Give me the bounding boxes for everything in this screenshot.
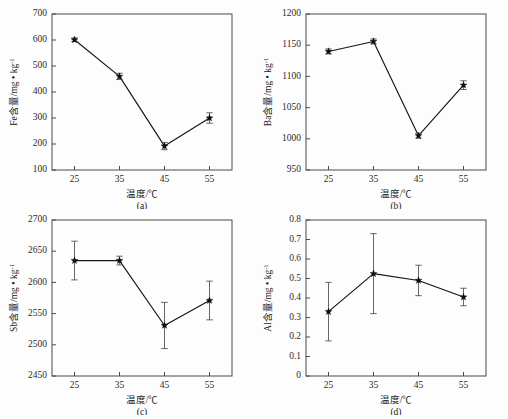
y-tick-label-b-5: 1200 <box>282 8 301 18</box>
x-tick-label-b-0: 25 <box>324 174 334 184</box>
chart-panel-d: 00.10.20.30.40.50.60.70.825354555温度/℃Al含… <box>254 206 508 415</box>
x-axis-title-d: 温度/℃ <box>380 394 413 405</box>
chart-svg-a: 10020030040050060070025354555温度/℃Fe含量/mg… <box>0 0 254 209</box>
data-line-b <box>329 41 464 135</box>
y-axis-title-main-a: Fe含量/mg • kg <box>8 64 19 126</box>
y-axis-title-group-d: Al含量/mg • kg-1 <box>262 264 273 331</box>
x-tick-label-c-1: 35 <box>115 380 125 390</box>
y-tick-label-d-5: 0.5 <box>289 273 301 283</box>
plot-frame-b <box>306 14 486 170</box>
x-tick-label-d-2: 45 <box>414 380 424 390</box>
y-tick-label-b-0: 950 <box>287 164 302 174</box>
x-tick-label-a-1: 35 <box>115 174 125 184</box>
x-tick-label-b-3: 55 <box>459 174 469 184</box>
y-tick-label-d-1: 0.1 <box>289 351 301 361</box>
figure-root: 10020030040050060070025354555温度/℃Fe含量/mg… <box>0 0 508 419</box>
panel-caption-c: (c) <box>137 407 148 415</box>
x-tick-label-d-0: 25 <box>324 380 334 390</box>
x-tick-label-d-3: 55 <box>459 380 469 390</box>
y-tick-label-a-4: 500 <box>33 60 48 70</box>
y-tick-label-b-3: 1100 <box>282 71 301 81</box>
chart-svg-d: 00.10.20.30.40.50.60.70.825354555温度/℃Al含… <box>254 206 508 415</box>
y-tick-label-c-3: 2600 <box>28 277 47 287</box>
y-tick-label-c-5: 2700 <box>28 214 47 224</box>
x-tick-label-b-1: 35 <box>369 174 379 184</box>
y-axis-title-main-b: Ba含量/mg • kg <box>262 63 273 126</box>
y-axis-title-a: Fe含量/mg • kg-1 <box>8 58 19 125</box>
y-tick-label-c-0: 2450 <box>28 370 47 380</box>
y-tick-label-d-2: 0.2 <box>289 331 301 341</box>
chart-panel-a: 10020030040050060070025354555温度/℃Fe含量/mg… <box>0 0 254 209</box>
y-tick-label-d-8: 0.8 <box>289 214 301 224</box>
y-axis-title-b: Ba含量/mg • kg-1 <box>262 58 273 126</box>
y-tick-label-a-3: 400 <box>33 86 48 96</box>
x-tick-label-a-3: 55 <box>205 174 215 184</box>
y-tick-label-b-4: 1150 <box>282 39 301 49</box>
y-tick-label-b-1: 1000 <box>282 133 301 143</box>
y-axis-title-exp-c: -1 <box>8 264 15 270</box>
y-tick-label-d-7: 0.7 <box>289 234 301 244</box>
y-axis-title-exp-b: -1 <box>262 58 269 64</box>
y-tick-label-c-4: 2650 <box>28 245 47 255</box>
y-tick-label-a-1: 200 <box>33 138 48 148</box>
y-axis-title-exp-a: -1 <box>8 58 15 64</box>
data-line-c <box>75 261 210 326</box>
panel-caption-d: (d) <box>390 407 401 415</box>
y-tick-label-c-1: 2500 <box>28 339 47 349</box>
y-tick-label-a-0: 100 <box>33 164 48 174</box>
y-axis-title-group-a: Fe含量/mg • kg-1 <box>8 58 19 125</box>
x-tick-label-c-3: 55 <box>205 380 215 390</box>
x-tick-label-c-2: 45 <box>160 380 170 390</box>
y-tick-label-d-6: 0.6 <box>289 253 301 263</box>
x-tick-label-c-0: 25 <box>70 380 80 390</box>
y-axis-title-d: Al含量/mg • kg-1 <box>262 264 273 331</box>
data-line-d <box>329 274 464 312</box>
y-axis-title-c: Sb含量/mg • kg-1 <box>8 264 19 332</box>
x-tick-label-a-0: 25 <box>70 174 80 184</box>
plot-frame-d <box>306 220 486 376</box>
data-line-a <box>75 40 210 146</box>
y-axis-title-group-b: Ba含量/mg • kg-1 <box>262 58 273 126</box>
y-tick-label-d-4: 0.4 <box>289 292 301 302</box>
chart-svg-c: 24502500255026002650270025354555温度/℃Sb含量… <box>0 206 254 415</box>
x-axis-title-c: 温度/℃ <box>126 394 159 405</box>
x-tick-label-a-2: 45 <box>160 174 170 184</box>
y-tick-label-d-0: 0 <box>296 370 301 380</box>
y-axis-title-main-d: Al含量/mg • kg <box>262 270 273 332</box>
plot-frame-c <box>52 220 232 376</box>
x-tick-label-b-2: 45 <box>414 174 424 184</box>
y-tick-label-a-2: 300 <box>33 112 48 122</box>
y-tick-label-d-3: 0.3 <box>289 312 301 322</box>
y-axis-title-exp-d: -1 <box>262 264 269 270</box>
y-tick-label-c-2: 2550 <box>28 308 47 318</box>
x-axis-title-b: 温度/℃ <box>380 188 413 199</box>
x-axis-title-a: 温度/℃ <box>126 188 159 199</box>
y-tick-label-a-5: 600 <box>33 34 48 44</box>
y-tick-label-b-2: 1050 <box>282 102 301 112</box>
chart-panel-b: 9501000105011001150120025354555温度/℃Ba含量/… <box>254 0 508 209</box>
y-axis-title-main-c: Sb含量/mg • kg <box>8 269 19 332</box>
chart-panel-c: 24502500255026002650270025354555温度/℃Sb含量… <box>0 206 254 415</box>
chart-svg-b: 9501000105011001150120025354555温度/℃Ba含量/… <box>254 0 508 209</box>
plot-frame-a <box>52 14 232 170</box>
y-axis-title-group-c: Sb含量/mg • kg-1 <box>8 264 19 332</box>
y-tick-label-a-6: 700 <box>33 8 48 18</box>
x-tick-label-d-1: 35 <box>369 380 379 390</box>
